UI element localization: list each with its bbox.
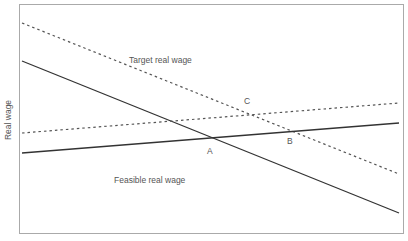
real-wage-diagram: Real wage Target real wage Feasible real… xyxy=(0,0,408,241)
feasible-real-wage-label: Feasible real wage xyxy=(114,175,186,185)
point-c-label: C xyxy=(244,96,250,106)
feasible-real-wage-line xyxy=(22,61,399,213)
shifted-wage-setting-line xyxy=(22,103,399,133)
y-axis-label: Real wage xyxy=(3,100,13,140)
plot-frame xyxy=(20,5,404,234)
point-b-label: B xyxy=(287,136,293,146)
target-real-wage-label: Target real wage xyxy=(129,55,192,65)
point-a-label: A xyxy=(207,146,213,156)
